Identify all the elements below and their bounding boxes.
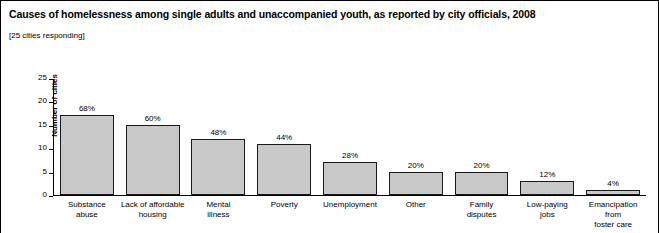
bar <box>60 115 114 195</box>
bar-value-label: 44% <box>251 133 317 142</box>
bar <box>520 181 574 195</box>
bar <box>455 172 509 195</box>
bar-value-label: 60% <box>120 114 186 123</box>
y-axis-tick-label: 25 <box>38 73 47 82</box>
y-axis-tick-label: 10 <box>38 143 47 152</box>
category-label-line: Other <box>406 200 426 209</box>
bar-group: 4%Emancipationfromfoster care <box>580 79 646 195</box>
bar-value-label: 20% <box>383 161 449 170</box>
x-axis-line <box>53 195 646 196</box>
y-axis-tick-mark <box>49 126 53 127</box>
bar <box>323 162 377 195</box>
y-axis-tick-label: 20 <box>38 96 47 105</box>
bar-group: 68%Substanceabuse <box>54 79 120 195</box>
bar-value-label: 68% <box>54 104 120 113</box>
chart-figure: Causes of homelessness among single adul… <box>0 0 659 233</box>
category-label-line: abuse <box>76 210 98 219</box>
bar-value-label: 28% <box>317 151 383 160</box>
bar <box>126 125 180 195</box>
category-label-line: jobs <box>540 210 555 219</box>
category-label-line: Poverty <box>271 200 298 209</box>
bar-value-label: 4% <box>580 179 646 188</box>
category-label-line: disputes <box>467 210 497 219</box>
category-label-line: illness <box>207 210 229 219</box>
bar <box>389 172 443 195</box>
bar-group: 60%Lack of affordablehousing <box>120 79 186 195</box>
category-label-line: housing <box>139 210 167 219</box>
bar <box>586 190 640 195</box>
y-axis-tick-label: 0 <box>43 190 47 199</box>
y-axis-tick-label: 15 <box>38 120 47 129</box>
bar-group: 28%Unemployment <box>317 79 383 195</box>
category-label-line: Unemployment <box>323 200 377 209</box>
bar-group: 12%Low-payingjobs <box>514 79 580 195</box>
bar-group: 20%Other <box>383 79 449 195</box>
category-label-line: foster care <box>594 220 632 229</box>
category-label-line: Mental <box>206 200 230 209</box>
bar <box>191 139 245 195</box>
bar-series: 68%Substanceabuse60%Lack of affordableho… <box>54 79 646 195</box>
x-axis-category-label: Emancipationfromfoster care <box>575 200 651 230</box>
category-label-line: Low-paying <box>527 200 568 209</box>
plot-area: Number of cities 0510152025 68%Substance… <box>53 79 646 196</box>
bar <box>257 144 311 195</box>
chart-title: Causes of homelessness among single adul… <box>9 8 536 20</box>
category-label-line: Emancipation <box>589 200 637 209</box>
y-axis-tick-mark <box>49 102 53 103</box>
y-axis-tick-label: 5 <box>43 167 47 176</box>
y-axis-tick-mark <box>49 173 53 174</box>
chart-subtitle: [25 cities responding] <box>9 31 85 40</box>
category-label-line: from <box>605 210 621 219</box>
bar-group: 48%Mentalillness <box>186 79 252 195</box>
bar-value-label: 12% <box>514 170 580 179</box>
category-label-line: Substance <box>68 200 106 209</box>
y-axis-tick-mark <box>49 149 53 150</box>
category-label-line: Family <box>470 200 494 209</box>
bar-group: 20%Familydisputes <box>449 79 515 195</box>
bar-value-label: 48% <box>186 128 252 137</box>
y-axis-tick-mark <box>49 196 53 197</box>
bar-group: 44%Poverty <box>251 79 317 195</box>
y-axis-tick-mark <box>49 79 53 80</box>
bar-value-label: 20% <box>449 161 515 170</box>
category-label-line: Lack of affordable <box>121 200 184 209</box>
